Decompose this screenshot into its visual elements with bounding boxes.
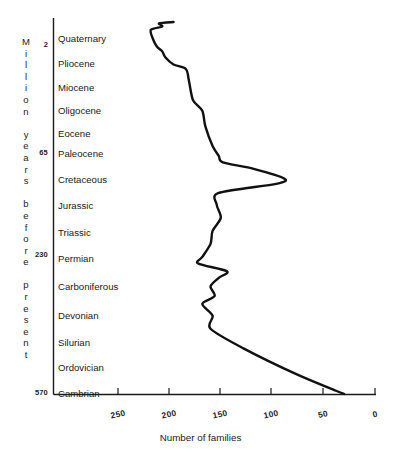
plot-area	[0, 0, 401, 457]
diversity-curve	[151, 22, 345, 394]
fossil-families-chart: Million years before present 265230570 Q…	[0, 0, 401, 457]
x-axis-title: Number of families	[0, 432, 401, 443]
